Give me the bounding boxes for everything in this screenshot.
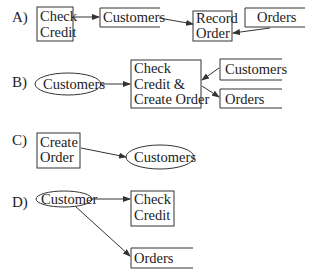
svg-text:Create: Create: [40, 134, 78, 150]
svg-text:Order: Order: [40, 149, 74, 165]
process-check-credit-create-order: Check Credit & Create Order: [131, 60, 209, 108]
svg-text:Record: Record: [196, 10, 239, 26]
process-create-order: Create Order: [37, 133, 80, 168]
svg-text:Order: Order: [196, 25, 230, 41]
process-check-credit: Check Credit: [37, 7, 78, 41]
svg-text:Customer: Customer: [41, 191, 98, 207]
svg-text:Create Order: Create Order: [134, 91, 209, 107]
svg-text:Credit &: Credit &: [134, 76, 186, 92]
datastore-customers: Customers: [100, 8, 165, 27]
svg-text:Customers: Customers: [43, 76, 105, 92]
external-customer: Customer: [36, 191, 98, 207]
external-customers-c: Customers: [126, 145, 196, 169]
svg-text:Orders: Orders: [134, 250, 174, 266]
arrow-store-to-process: [202, 68, 219, 80]
panel-c: C) Create Order Customers: [12, 132, 196, 169]
svg-text:Orders: Orders: [257, 9, 297, 25]
datastore-orders-b: Orders: [220, 89, 282, 108]
external-customers: Customers: [35, 73, 105, 95]
datastore-customers-b: Customers: [220, 59, 287, 80]
process-record-order: Record Order: [193, 10, 239, 41]
svg-text:Credit: Credit: [40, 24, 76, 40]
arrow-orders-to-record: [233, 28, 270, 33]
svg-text:Credit: Credit: [134, 207, 170, 223]
arrow-create-to-customers: [81, 148, 126, 157]
datastore-orders-d: Orders: [131, 248, 193, 268]
panel-label-c: C): [12, 132, 27, 149]
panel-b: B) Customers Check Credit & Create Order…: [12, 59, 287, 108]
panel-label-a: A): [12, 9, 28, 26]
svg-text:Check: Check: [40, 8, 78, 24]
svg-text:Check: Check: [134, 60, 172, 76]
svg-text:Customers: Customers: [134, 149, 196, 165]
dfd-diagram: A) Check Credit Customers Record Order O…: [0, 0, 310, 278]
svg-text:Check: Check: [134, 191, 172, 207]
panel-d: D) Customer Check Orders Credit Orders: [12, 191, 193, 268]
arrow-customer-to-orders: [75, 206, 130, 256]
svg-text:Customers: Customers: [103, 9, 165, 25]
svg-text:Customers: Customers: [225, 61, 287, 77]
svg-text:Orders: Orders: [225, 91, 265, 107]
datastore-orders: Orders: [245, 8, 305, 27]
process-check-credit-d: Check Orders Credit: [131, 191, 174, 226]
panel-a: A) Check Credit Customers Record Order O…: [12, 7, 305, 41]
panel-label-d: D): [12, 194, 28, 211]
panel-label-b: B): [12, 74, 27, 91]
